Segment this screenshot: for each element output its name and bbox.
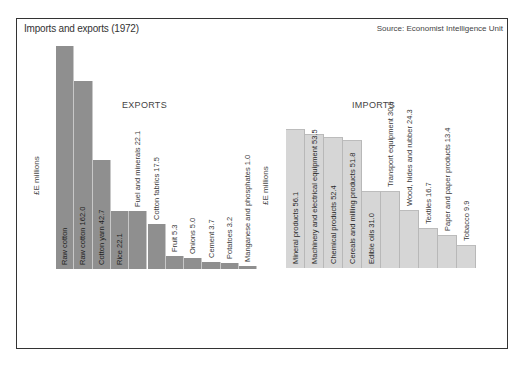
bar-label: Tobacco 9.9 <box>462 201 471 241</box>
imports-unit-label: £E millions <box>261 166 270 205</box>
bar-label: Cereals and milling products 51.8 <box>348 153 357 264</box>
bar-label: Edible oils 31.0 <box>367 213 376 264</box>
export-bar <box>129 211 147 269</box>
bar-label: Fuel and minerals 22.1 <box>133 131 142 207</box>
import-bar <box>438 235 457 268</box>
export-bar <box>148 224 166 269</box>
chart-title: Imports and exports (1972) <box>24 23 139 34</box>
import-bar <box>457 245 476 268</box>
bar-label: Manganese and phosphates 1.0 <box>243 155 252 262</box>
export-bar <box>239 266 257 269</box>
bar-label: Raw cotton 162.0 <box>78 207 87 265</box>
bar-label: Cotton yarn 42.7 <box>97 210 106 265</box>
export-bar <box>221 263 239 269</box>
bar-label: Textiles 16.7 <box>424 182 433 224</box>
bar-label: Transport equipment 30.9 <box>386 101 395 187</box>
bar-label: Mineral products 56.1 <box>291 192 300 264</box>
exports-heading: EXPORTS <box>122 100 167 110</box>
bar-label: Cotton fabrics 17.5 <box>152 157 161 220</box>
bar-label: Paper and paper products 13.4 <box>443 128 452 231</box>
import-bar <box>419 228 438 268</box>
export-bar <box>184 258 202 269</box>
export-bar <box>166 256 184 269</box>
source-note: Source: Economist Intelligence Unit <box>377 24 503 33</box>
import-bar <box>381 191 400 268</box>
bar-label: Raw cotton <box>60 227 69 265</box>
bar-label: Chemical products 52.4 <box>329 185 338 264</box>
export-bar <box>202 262 220 269</box>
bar-label: Cement 3.7 <box>207 219 216 258</box>
bar-label: Wood, hides and rubber 24.3 <box>405 109 414 206</box>
bar-label: Machinery and electrical equipment 53.5 <box>310 129 319 264</box>
import-bar <box>400 210 419 268</box>
bar-label: Rice 22.1 <box>115 233 124 265</box>
exports-unit-label: £E millions <box>32 156 41 195</box>
bar-label: Onions 5.0 <box>188 218 197 254</box>
bar-label: Potatoes 3.2 <box>225 217 234 259</box>
bar-label: Fruit 5.3 <box>170 224 179 252</box>
